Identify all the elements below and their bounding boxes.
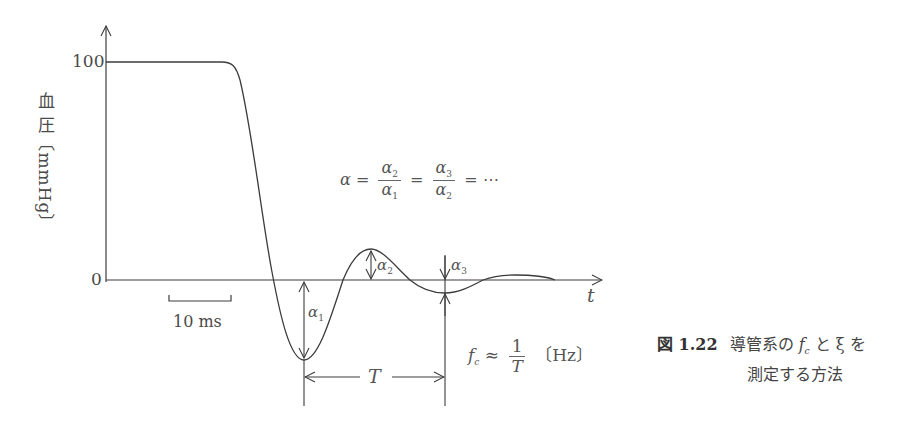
fraction-alpha3-over-alpha2: α3 α2 xyxy=(433,160,456,201)
period-label: T xyxy=(368,367,381,386)
x-axis-label: t xyxy=(587,286,595,305)
fraction-one-over-t: 1 T xyxy=(508,338,525,375)
damping-ratio-formula: α = α2 α1 = α3 α2 = ⋯ xyxy=(340,160,499,201)
fraction-alpha2-over-alpha1: α2 α1 xyxy=(378,160,401,201)
natural-frequency-formula: fc ≈ 1 T 〔Hz〕 xyxy=(468,338,593,375)
caption-line-2: 測定する方法 xyxy=(657,363,866,387)
alpha3-label: α3 xyxy=(451,258,467,276)
y-tick-100: 100 xyxy=(72,53,104,70)
y-tick-0: 0 xyxy=(91,271,102,288)
scale-bar xyxy=(169,295,231,301)
caption-line-1: 図 1.22導管系の fc と ξ を xyxy=(657,333,866,363)
figure-caption: 図 1.22導管系の fc と ξ を 測定する方法 xyxy=(657,333,866,387)
scale-bar-label: 10 ms xyxy=(173,314,222,330)
figure-number: 図 1.22 xyxy=(657,335,718,354)
y-axis-label: 血 圧〔mmHg〕 xyxy=(36,92,58,232)
alpha1-label: α1 xyxy=(308,305,324,323)
alpha2-label: α2 xyxy=(377,258,393,276)
